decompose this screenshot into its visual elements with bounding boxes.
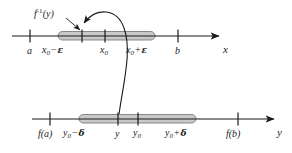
epsilon-sym-2: ε [142, 45, 147, 55]
y-label-y0: y0 [133, 128, 141, 138]
plus-sign-1: + [134, 44, 142, 55]
y-sub-2: 0 [137, 132, 141, 140]
minus-sign-2: − [71, 127, 79, 138]
x-label-x0: x0 [100, 45, 108, 55]
x-label-a: a [27, 46, 32, 56]
y-label-y0-plus-delta: y0+δ [165, 128, 187, 138]
delta-sym-1: δ [79, 128, 85, 138]
y-axis-name: y [277, 127, 282, 138]
callout-leader-line [66, 18, 80, 30]
x-label-x0-plus-epsilon: x0+ε [126, 45, 147, 55]
x-label-b: b [175, 46, 180, 56]
epsilon-sym-1: ε [58, 45, 63, 55]
callout-exponent: -1 [37, 7, 43, 15]
y-label-y0-minus-delta: y0−δ [63, 128, 85, 138]
inverse-function-diagram: f-1(y) a x0−ε x0 x0+ε b x f(a) y0−δ y y0… [0, 0, 292, 153]
x-label-x0-minus-epsilon: x0−ε [42, 45, 63, 55]
y-label-y: y [115, 129, 119, 139]
y-label-f-of-a: f(a) [38, 129, 52, 139]
plus-sign-2: + [173, 127, 181, 138]
y-sub-3: 0 [169, 132, 173, 140]
delta-sym-2: δ [181, 128, 187, 138]
callout-argument: (y) [43, 8, 54, 19]
x-axis-group [12, 30, 219, 43]
y-sub-1: 0 [67, 132, 71, 140]
y-label-f-of-b: f(b) [226, 129, 240, 139]
inverse-mapping-curve [84, 12, 127, 114]
x-sub-1: 0 [46, 49, 50, 57]
y-axis-group [32, 113, 274, 126]
minus-sign-1: − [50, 44, 58, 55]
x-axis-name: x [223, 44, 228, 55]
x-sub-3: 0 [130, 49, 134, 57]
x-sub-2: 0 [104, 49, 108, 57]
callout-label-f-inverse: f-1(y) [34, 9, 54, 19]
